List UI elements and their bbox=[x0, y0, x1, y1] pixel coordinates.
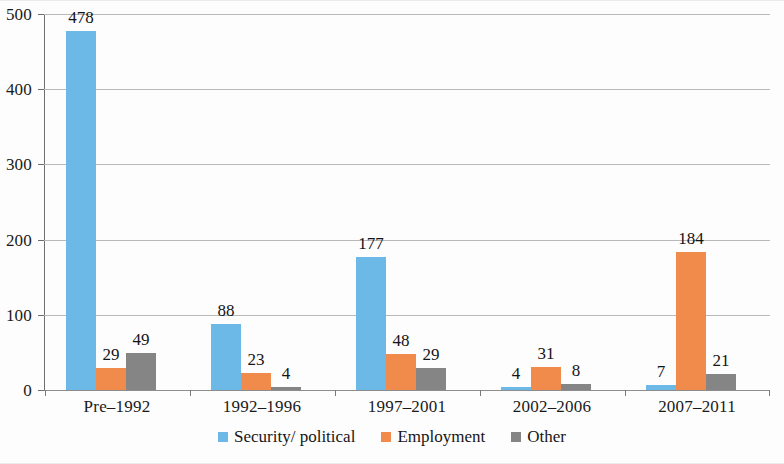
bar-other[interactable] bbox=[271, 387, 301, 390]
bar-other[interactable] bbox=[561, 384, 591, 390]
y-axis-label-300: 300 bbox=[0, 156, 32, 173]
legend-swatch-icon bbox=[218, 432, 228, 442]
y-axis-label-0: 0 bbox=[0, 382, 32, 399]
gridline-baseline-0 bbox=[44, 390, 770, 391]
x-axis-tick-0 bbox=[45, 390, 46, 396]
bar-slot-other: 21 bbox=[706, 14, 736, 390]
bar-value-label: 4 bbox=[256, 365, 316, 382]
chart-legend: Security/ political Employment Other bbox=[0, 428, 784, 445]
bar-chart: 500 400 300 200 100 0 478 29 bbox=[0, 0, 784, 464]
bar-slot-security-political: 7 bbox=[646, 14, 676, 390]
y-axis-label-500: 500 bbox=[0, 6, 32, 23]
y-axis-label-100: 100 bbox=[0, 307, 32, 324]
bar-security-political[interactable] bbox=[356, 257, 386, 390]
bar-employment[interactable] bbox=[676, 252, 706, 390]
bar-slot-security-political: 478 bbox=[66, 14, 96, 390]
bar-slot-employment: 31 bbox=[531, 14, 561, 390]
legend-label: Other bbox=[527, 428, 566, 445]
legend-label: Employment bbox=[397, 428, 485, 445]
plot-area: 478 29 49 88 2 bbox=[44, 14, 770, 390]
x-axis-tick-3 bbox=[480, 390, 481, 396]
x-axis-tick-5 bbox=[769, 390, 770, 396]
bar-value-label: 29 bbox=[401, 346, 461, 363]
x-axis-tick-2 bbox=[335, 390, 336, 396]
legend-label: Security/ political bbox=[234, 428, 355, 445]
y-axis-label-400: 400 bbox=[0, 81, 32, 98]
bar-security-political[interactable] bbox=[66, 31, 96, 390]
bar-employment[interactable] bbox=[96, 368, 126, 390]
bar-slot-other: 8 bbox=[561, 14, 591, 390]
bar-slot-other: 49 bbox=[126, 14, 156, 390]
legend-item-security-political[interactable]: Security/ political bbox=[218, 428, 355, 445]
bar-other[interactable] bbox=[416, 368, 446, 390]
bar-other[interactable] bbox=[126, 353, 156, 390]
bar-slot-security-political: 88 bbox=[211, 14, 241, 390]
bar-value-label: 8 bbox=[546, 362, 606, 379]
bar-value-label: 49 bbox=[111, 331, 171, 348]
scan-edge-top bbox=[0, 0, 784, 1]
y-axis-label-200: 200 bbox=[0, 232, 32, 249]
x-axis-label-2002-2006: 2002–2006 bbox=[472, 398, 632, 417]
bar-value-label: 21 bbox=[691, 352, 751, 369]
bar-slot-other: 4 bbox=[271, 14, 301, 390]
x-axis-label-2007-2011: 2007–2011 bbox=[617, 398, 777, 417]
bar-security-political[interactable] bbox=[646, 385, 676, 390]
bar-slot-employment: 48 bbox=[386, 14, 416, 390]
bar-other[interactable] bbox=[706, 374, 736, 390]
bar-slot-security-political: 4 bbox=[501, 14, 531, 390]
bar-slot-employment: 184 bbox=[676, 14, 706, 390]
legend-item-other[interactable]: Other bbox=[511, 428, 566, 445]
bar-security-political[interactable] bbox=[501, 387, 531, 390]
bar-slot-employment: 23 bbox=[241, 14, 271, 390]
x-axis-tick-4 bbox=[625, 390, 626, 396]
x-axis-label-pre-1992: Pre–1992 bbox=[37, 398, 197, 417]
bar-slot-other: 29 bbox=[416, 14, 446, 390]
legend-item-employment[interactable]: Employment bbox=[381, 428, 485, 445]
x-axis-tick-1 bbox=[190, 390, 191, 396]
legend-swatch-icon bbox=[381, 432, 391, 442]
x-axis-label-1992-1996: 1992–1996 bbox=[182, 398, 342, 417]
legend-swatch-icon bbox=[511, 432, 521, 442]
x-axis-label-1997-2001: 1997–2001 bbox=[327, 398, 487, 417]
